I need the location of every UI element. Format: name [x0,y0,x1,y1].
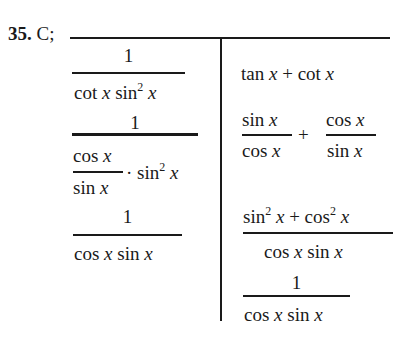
left-step1-fraction-bar [72,72,185,74]
problem-label: 35. C; [8,24,54,43]
fn-tan: tan [241,63,264,84]
fn-cos: cos [305,206,330,227]
fn-sin: sin [137,162,159,183]
var-x: x [269,109,277,130]
left-step2-numerator: 1 [72,113,198,132]
left-step3-denominator: cos x sin x [74,244,153,263]
fn-sin: sin [243,206,265,227]
fn-cot: cot [74,82,97,103]
numerator-one: 1 [124,45,134,66]
fn-cot: cot [298,63,321,84]
right-step2-frac2-denominator: sin x [327,141,362,160]
left-step3-numerator: 1 [73,207,182,226]
table-divider [220,37,222,321]
table-top-rule [70,37,390,39]
plus-sign: + [298,124,309,145]
fn-sin: sin [117,243,139,264]
left-step2-inner-numerator: cos x [73,146,112,165]
right-step2-frac1-numerator: sin x [242,110,277,129]
fn-sin: sin [287,304,309,325]
right-step1-expression: tan x + cot x [241,64,334,83]
fn-cos: cos [242,140,267,161]
right-step3-numerator: sin2 x + cos2 x [243,207,349,226]
var-x: x [170,162,178,183]
fn-sin: sin [73,177,95,198]
fn-sin: sin [115,82,137,103]
var-x: x [276,206,284,227]
exponent: 2 [265,204,271,218]
var-x: x [354,140,362,161]
var-x: x [314,304,322,325]
left-step2-inner-fraction-bar [73,171,123,173]
fn-cos: cos [73,145,98,166]
fn-cos: cos [264,241,289,262]
var-x: x [102,82,110,103]
numerator-one: 1 [130,112,140,133]
right-step2-frac2-numerator: cos x [326,110,365,129]
var-x: x [100,177,108,198]
right-step4-numerator: 1 [243,273,350,292]
right-step3-fraction-bar [243,232,393,234]
right-step2-frac2-bar [326,134,376,136]
var-x: x [356,109,364,130]
exponent: 2 [137,80,143,94]
fn-cos: cos [74,243,99,264]
left-step1-numerator: 1 [72,46,185,65]
exponent: 2 [159,160,165,174]
problem-number: 35. [8,23,32,44]
right-step4-fraction-bar [243,295,350,297]
numerator-one: 1 [123,206,133,227]
multiply-dot: · [126,162,132,183]
plus-sign: + [289,206,300,227]
var-x: x [269,63,277,84]
var-x: x [148,82,156,103]
exponent: 2 [330,204,336,218]
answer-choice: C; [37,23,55,44]
var-x: x [103,145,111,166]
left-step2-factor: · sin2 x [126,163,178,182]
left-step2-main-fraction-bar [72,133,198,136]
left-step1-denominator: cot x sin2 x [74,83,157,102]
var-x: x [144,243,152,264]
var-x: x [326,63,334,84]
left-step2-inner-denominator: sin x [73,178,108,197]
var-x: x [274,304,282,325]
fn-cos: cos [244,304,269,325]
fn-cos: cos [326,109,351,130]
numerator-one: 1 [292,272,302,293]
fn-sin: sin [307,241,329,262]
fn-sin: sin [242,109,264,130]
right-step2-frac1-denominator: cos x [242,141,281,160]
right-step4-denominator: cos x sin x [244,305,323,324]
plus-sign: + [282,63,293,84]
var-x: x [104,243,112,264]
right-step2-frac1-bar [242,134,292,136]
var-x: x [272,140,280,161]
var-x: x [294,241,302,262]
var-x: x [334,241,342,262]
var-x: x [341,206,349,227]
right-step3-denominator: cos x sin x [264,242,343,261]
left-step3-fraction-bar [73,234,182,236]
fn-sin: sin [327,140,349,161]
right-step2-plus: + [298,125,309,144]
